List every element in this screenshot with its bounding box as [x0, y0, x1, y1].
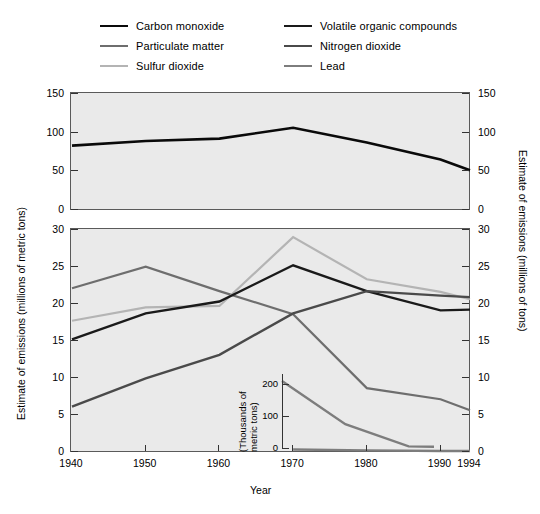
legend-item: Lead — [284, 56, 457, 76]
x-tick — [218, 445, 219, 451]
x-tick — [366, 445, 367, 451]
legend-item-label: Carbon monoxide — [136, 21, 224, 32]
series-line — [72, 128, 470, 171]
y-ticklabel-right: 15 — [478, 335, 490, 346]
y-ticklabel-right: 50 — [478, 165, 490, 176]
y-ticklabel-left: 0 — [26, 446, 64, 457]
y-ticklabel-left: 50 — [26, 165, 64, 176]
y-tick-right — [462, 414, 469, 415]
top-panel-plot-area — [70, 92, 470, 210]
y-ticklabel-right: 10 — [478, 372, 490, 383]
legend-swatch-line-icon — [284, 25, 312, 27]
y-tick-left — [71, 303, 78, 304]
y-ticklabel-left: 100 — [26, 127, 64, 138]
inset-y-axis-title-line2: metric tons) — [249, 402, 260, 452]
x-ticklabel: 1950 — [123, 458, 167, 469]
x-tick — [145, 445, 146, 451]
chart-legend: Carbon monoxideParticulate matterSulfur … — [0, 16, 540, 78]
y-tick-left — [71, 229, 78, 230]
y-ticklabel-right: 5 — [478, 409, 484, 420]
lead-inset-chart: 0100200(Thousands ofmetric tons) — [240, 368, 440, 452]
left-axis-title: Estimate of emissions (millions of metri… — [16, 207, 27, 420]
legend-item-label: Sulfur dioxide — [136, 61, 204, 72]
y-ticklabel-right: 30 — [478, 224, 490, 235]
y-tick-left — [71, 132, 78, 133]
legend-swatch-line-icon — [284, 65, 312, 67]
x-axis-title: Year — [250, 485, 271, 496]
legend-swatch-line-icon — [100, 65, 128, 67]
y-tick-left — [71, 451, 78, 452]
y-ticklabel-left: 0 — [26, 204, 64, 215]
y-tick-right — [462, 266, 469, 267]
legend-column-right: Volatile organic compoundsNitrogen dioxi… — [284, 16, 457, 76]
y-tick-right — [462, 229, 469, 230]
x-tick — [440, 445, 441, 451]
right-axis-title: Estimate of emissions (millions of tons) — [517, 150, 528, 331]
y-ticklabel-left: 25 — [26, 261, 64, 272]
inset-y-tick — [283, 416, 289, 417]
top-panel-lines — [71, 93, 469, 209]
chart-figure: Carbon monoxideParticulate matterSulfur … — [0, 0, 540, 514]
y-ticklabel-left: 10 — [26, 372, 64, 383]
inset-y-axis-title-line1: (Thousands of — [238, 391, 249, 452]
x-ticklabel: 1960 — [196, 458, 240, 469]
legend-item-label: Volatile organic compounds — [320, 21, 457, 32]
y-tick-right — [462, 377, 469, 378]
x-ticklabel: 1994 — [447, 458, 491, 469]
legend-item-label: Nitrogen dioxide — [320, 41, 401, 52]
y-ticklabel-left: 150 — [26, 88, 64, 99]
y-tick-left — [71, 414, 78, 415]
legend-column-left: Carbon monoxideParticulate matterSulfur … — [100, 16, 224, 76]
y-tick-right — [462, 303, 469, 304]
inset-y-ticklabel: 200 — [248, 379, 278, 389]
legend-item: Carbon monoxide — [100, 16, 224, 36]
y-ticklabel-right: 25 — [478, 261, 490, 272]
y-tick-left — [71, 209, 78, 210]
y-ticklabel-right: 20 — [478, 298, 490, 309]
inset-y-tick — [283, 448, 289, 449]
y-ticklabel-left: 15 — [26, 335, 64, 346]
inset-y-axis-line — [282, 374, 283, 449]
x-tick — [292, 445, 293, 451]
y-tick-left — [71, 266, 78, 267]
legend-item-label: Lead — [320, 61, 345, 72]
legend-item: Nitrogen dioxide — [284, 36, 457, 56]
y-ticklabel-right: 0 — [478, 204, 484, 215]
y-ticklabel-right: 150 — [478, 88, 496, 99]
y-ticklabel-right: 0 — [478, 446, 484, 457]
inset-series-line — [282, 381, 434, 447]
y-ticklabel-left: 5 — [26, 409, 64, 420]
y-tick-right — [462, 451, 469, 452]
y-ticklabel-left: 20 — [26, 298, 64, 309]
legend-swatch-line-icon — [284, 45, 312, 47]
y-ticklabel-left: 30 — [26, 224, 64, 235]
inset-y-tick — [283, 384, 289, 385]
y-tick-right — [462, 132, 469, 133]
y-tick-left — [71, 377, 78, 378]
legend-swatch-line-icon — [100, 25, 128, 27]
x-ticklabel: 1980 — [344, 458, 388, 469]
series-line — [72, 265, 470, 339]
y-tick-left — [71, 93, 78, 94]
legend-item: Particulate matter — [100, 36, 224, 56]
x-ticklabel: 1940 — [49, 458, 93, 469]
y-tick-left — [71, 340, 78, 341]
y-tick-right — [462, 93, 469, 94]
legend-item: Volatile organic compounds — [284, 16, 457, 36]
legend-item-label: Particulate matter — [136, 41, 224, 52]
y-tick-right — [462, 340, 469, 341]
y-tick-right — [462, 209, 469, 210]
y-tick-left — [71, 170, 78, 171]
x-ticklabel: 1970 — [270, 458, 314, 469]
y-ticklabel-right: 100 — [478, 127, 496, 138]
legend-item: Sulfur dioxide — [100, 56, 224, 76]
legend-swatch-line-icon — [100, 45, 128, 47]
y-tick-right — [462, 170, 469, 171]
